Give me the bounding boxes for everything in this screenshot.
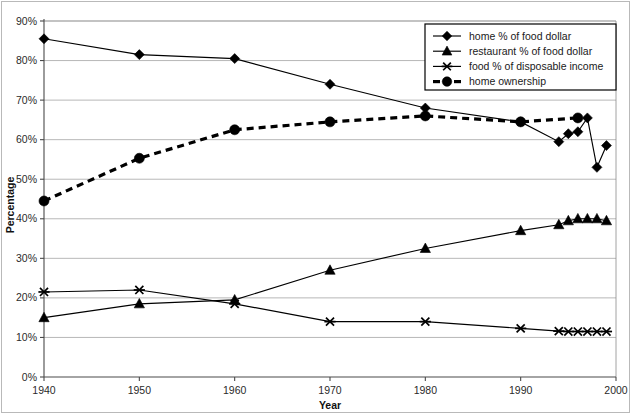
y-tick-label: 20% (16, 291, 37, 303)
y-axis-title: Percentage (4, 177, 16, 234)
chart-container: 0%10%20%30%40%50%60%70%80%90% 1940195019… (0, 0, 631, 415)
chart-legend[interactable]: home % of food dollarrestaurant % of foo… (425, 24, 616, 90)
y-tick-label: 60% (16, 133, 37, 145)
legend-label: food % of disposable income (469, 60, 603, 72)
data-point-circle (442, 77, 452, 87)
x-tick-label: 1970 (318, 384, 342, 396)
x-tick-label: 2000 (604, 384, 628, 396)
y-tick-label: 50% (16, 173, 37, 185)
y-tick-label: 30% (16, 252, 37, 264)
legend-label: restaurant % of food dollar (469, 45, 593, 57)
data-point-circle (325, 117, 335, 127)
x-tick-label: 1950 (128, 384, 152, 396)
legend-label: home % of food dollar (469, 30, 572, 42)
x-tick-label: 1940 (32, 384, 56, 396)
data-point-circle (573, 113, 583, 123)
x-tick-label: 1960 (223, 384, 247, 396)
legend-label: home ownership (469, 75, 546, 87)
y-tick-label: 90% (16, 15, 37, 27)
data-point-circle (230, 125, 240, 135)
data-point-circle (39, 196, 49, 206)
x-tick-label: 1980 (414, 384, 438, 396)
y-tick-label: 10% (16, 331, 37, 343)
data-point-circle (420, 111, 430, 121)
x-tick-label: 1990 (509, 384, 533, 396)
y-tick-label: 80% (16, 54, 37, 66)
y-tick-label: 70% (16, 94, 37, 106)
x-axis-title: Year (319, 399, 341, 411)
line-chart: 0%10%20%30%40%50%60%70%80%90% 1940195019… (0, 0, 631, 415)
y-tick-label: 40% (16, 212, 37, 224)
data-point-circle (516, 117, 526, 127)
data-point-circle (134, 153, 144, 163)
y-tick-label: 0% (22, 371, 37, 383)
